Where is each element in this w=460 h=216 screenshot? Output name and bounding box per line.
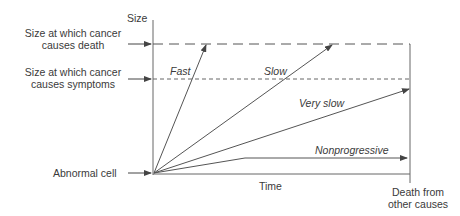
death-level-label: Size at which cancer causes death bbox=[18, 27, 128, 51]
x-axis-label: Time bbox=[259, 180, 282, 192]
symptoms-level-label: Size at which cancer causes symptoms bbox=[18, 66, 128, 90]
death-other-causes-label: Death from other causes bbox=[376, 186, 460, 210]
abnormal-cell-label: Abnormal cell bbox=[53, 167, 117, 179]
y-axis-label: Size bbox=[127, 12, 147, 24]
death-level-line2: causes death bbox=[18, 39, 128, 51]
slow-label: Slow bbox=[264, 65, 287, 77]
symptoms-level-line1: Size at which cancer bbox=[18, 66, 128, 78]
fast-label: Fast bbox=[170, 65, 190, 77]
very-slow-label: Very slow bbox=[299, 97, 344, 109]
very-slow-trajectory-arrow bbox=[154, 89, 409, 173]
death-other-causes-line2: other causes bbox=[376, 198, 460, 210]
symptoms-level-line2: causes symptoms bbox=[18, 78, 128, 90]
death-level-line1: Size at which cancer bbox=[18, 27, 128, 39]
death-other-causes-line1: Death from bbox=[376, 186, 460, 198]
nonprogressive-label: Nonprogressive bbox=[315, 144, 389, 156]
